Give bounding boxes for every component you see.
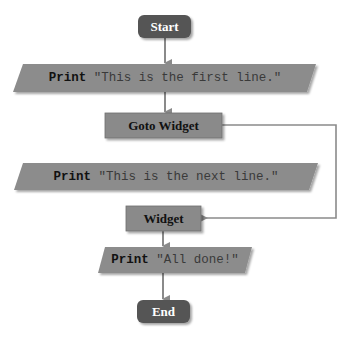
start-label: Start (150, 19, 178, 35)
print2-text: "This is the next line." (99, 170, 279, 184)
print3-node: Print "All done!" (98, 247, 252, 273)
print1-keyword: Print (49, 71, 87, 85)
goto-node: Goto Widget (105, 113, 222, 138)
widget-node: Widget (126, 206, 201, 231)
print3-text: "All done!" (156, 253, 239, 267)
print2-keyword: Print (53, 170, 91, 184)
print1-node: Print "This is the first line." (14, 64, 316, 92)
start-node: Start (138, 15, 191, 38)
print2-node: Print "This is the next line." (14, 163, 318, 190)
goto-label: Goto Widget (128, 118, 199, 134)
end-label: End (152, 304, 175, 320)
print3-keyword: Print (111, 253, 149, 267)
end-node: End (137, 300, 190, 323)
widget-label: Widget (143, 211, 183, 227)
print1-text: "This is the first line." (94, 71, 282, 85)
